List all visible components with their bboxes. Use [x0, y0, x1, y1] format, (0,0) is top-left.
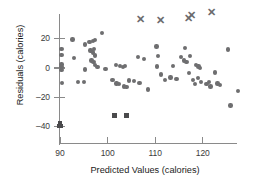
x-axis-tick-label: 90 [45, 148, 75, 158]
data-point [59, 53, 63, 57]
data-point [199, 80, 203, 84]
data-point [100, 31, 104, 35]
y-axis-tick-label: –40 [24, 121, 50, 131]
data-point [72, 56, 76, 60]
x-axis-tick [202, 137, 203, 144]
data-point [132, 79, 136, 83]
data-point [59, 47, 63, 51]
data-point-square-marker [112, 113, 117, 118]
data-point-x-marker: ✕ [207, 7, 216, 18]
data-point [156, 54, 160, 58]
data-point [117, 82, 121, 86]
data-point [236, 89, 240, 93]
data-point [76, 80, 80, 84]
data-point [83, 67, 87, 71]
data-point [136, 55, 140, 59]
data-point-x-marker: ✕ [156, 15, 165, 26]
x-axis-tick [155, 137, 156, 144]
data-point [92, 47, 96, 51]
data-point-x-marker: ✕ [187, 10, 196, 21]
data-point [154, 44, 158, 48]
data-point [103, 67, 107, 71]
data-point [124, 85, 128, 89]
data-point [146, 87, 150, 91]
y-axis-tick-label: –20 [24, 92, 50, 102]
data-point [59, 68, 63, 72]
data-point [159, 72, 163, 76]
x-axis-tick [59, 137, 60, 144]
x-axis-line [59, 143, 237, 144]
data-point [137, 81, 141, 85]
data-point [228, 103, 232, 107]
data-point [110, 78, 114, 82]
data-point [171, 64, 175, 68]
data-point [168, 75, 172, 79]
data-point-x-marker: ✕ [136, 13, 145, 24]
data-point [127, 78, 131, 82]
data-point [184, 60, 188, 64]
data-point [226, 47, 230, 51]
y-axis-tick [54, 38, 65, 39]
data-point [60, 81, 64, 85]
x-axis-tick [107, 137, 108, 144]
data-point [93, 38, 97, 42]
plot-area: 200–20–4090100110120 ✕✕✕✕✕ [0, 0, 256, 186]
x-axis-title: Predicted Values (calories) [50, 165, 240, 175]
data-point [187, 71, 191, 75]
data-point [142, 57, 146, 61]
y-axis-tick [54, 97, 65, 98]
data-point [93, 53, 97, 57]
data-point [82, 80, 86, 84]
data-point-square-marker [124, 113, 129, 118]
data-point [208, 84, 212, 88]
data-point [218, 83, 222, 87]
x-axis-tick-label: 100 [93, 148, 123, 158]
data-point [183, 46, 187, 50]
y-axis-tick-label: 20 [24, 33, 50, 43]
data-point [193, 82, 197, 86]
data-point [155, 64, 159, 68]
y-axis-title: Residuals (calories) [15, 5, 25, 125]
y-axis-tick-label: 0 [24, 63, 50, 73]
data-point [188, 54, 192, 58]
data-point [95, 65, 99, 69]
data-point [174, 77, 178, 81]
data-point [163, 78, 167, 82]
data-point [70, 37, 74, 41]
data-point [213, 70, 217, 74]
data-point [198, 66, 202, 70]
data-point-square-marker [57, 124, 62, 129]
x-axis-tick-label: 110 [140, 148, 170, 158]
data-point [123, 64, 127, 68]
x-axis-tick-label: 120 [188, 148, 218, 158]
residual-plot: 200–20–4090100110120 ✕✕✕✕✕ Residuals (ca… [0, 0, 256, 186]
